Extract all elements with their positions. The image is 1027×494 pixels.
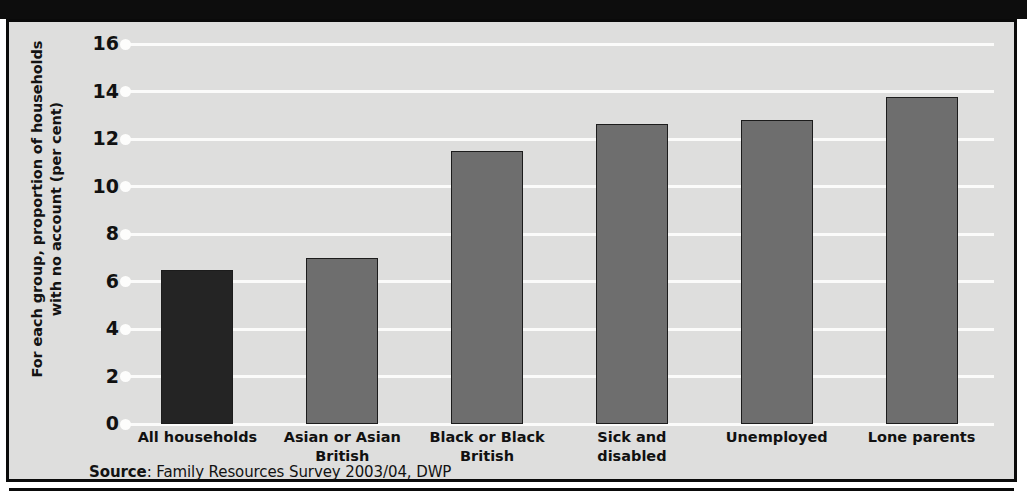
x-axis-category-label: Lone parents xyxy=(849,428,994,447)
chart-canvas: For each group, proportion of households… xyxy=(9,22,1014,479)
figure-page: For each group, proportion of households… xyxy=(0,0,1027,494)
x-axis-category-label: All households xyxy=(125,428,270,447)
page-top-band xyxy=(0,0,1027,19)
gridline xyxy=(125,185,994,188)
source-value: : Family Resources Survey 2003/04, DWP xyxy=(147,463,452,481)
gridline-knob xyxy=(120,276,131,287)
x-axis-label-line: Sick and xyxy=(560,428,705,447)
y-axis-tick-label: 8 xyxy=(73,224,119,243)
y-axis-tick-label: 14 xyxy=(73,82,119,101)
y-axis-tick-label: 4 xyxy=(73,319,119,338)
gridline-knob xyxy=(120,134,131,145)
plot-area xyxy=(125,44,994,424)
gridline-knob xyxy=(120,324,131,335)
source-note: Source: Family Resources Survey 2003/04,… xyxy=(89,463,451,481)
gridline-knob xyxy=(120,86,131,97)
gridline-knob xyxy=(120,371,131,382)
y-axis-tick-label: 0 xyxy=(73,414,119,433)
gridline-knob xyxy=(120,181,131,192)
gridline xyxy=(125,375,994,378)
gridline-knob xyxy=(120,39,131,50)
y-axis-tick-label: 10 xyxy=(73,177,119,196)
gridline xyxy=(125,90,994,93)
gridline xyxy=(125,280,994,283)
y-axis-tick-label: 12 xyxy=(73,129,119,148)
x-axis-category-label: Asian or AsianBritish xyxy=(270,428,415,467)
bar xyxy=(596,124,668,424)
y-axis-title: For each group, proportion of households… xyxy=(28,29,66,389)
x-axis-label-line: Black or Black xyxy=(415,428,560,447)
gridline xyxy=(125,233,994,236)
gridline xyxy=(125,138,994,141)
y-axis-tick-labels: 1614121086420 xyxy=(65,44,119,424)
bar xyxy=(451,151,523,424)
y-axis-tick-label: 2 xyxy=(73,367,119,386)
gridline xyxy=(125,423,994,426)
y-axis-tick-label: 6 xyxy=(73,272,119,291)
x-axis-category-label: Sick anddisabled xyxy=(560,428,705,467)
gridline xyxy=(125,43,994,46)
y-axis-tick-label: 16 xyxy=(73,34,119,53)
x-axis-label-line: disabled xyxy=(560,447,705,466)
source-divider xyxy=(9,488,1014,491)
x-axis-label-line: Unemployed xyxy=(704,428,849,447)
x-axis-label-line: All households xyxy=(125,428,270,447)
bar xyxy=(161,270,233,424)
chart-frame: For each group, proportion of households… xyxy=(6,19,1017,482)
x-axis-label-line: Asian or Asian xyxy=(270,428,415,447)
bar xyxy=(886,97,958,424)
x-axis-label-line: Lone parents xyxy=(849,428,994,447)
gridline xyxy=(125,328,994,331)
x-axis-category-label: Unemployed xyxy=(704,428,849,447)
source-label: Source xyxy=(89,463,147,481)
bar xyxy=(741,120,813,424)
bar xyxy=(306,258,378,424)
x-axis-category-label: Black or BlackBritish xyxy=(415,428,560,467)
gridline-knob xyxy=(120,229,131,240)
